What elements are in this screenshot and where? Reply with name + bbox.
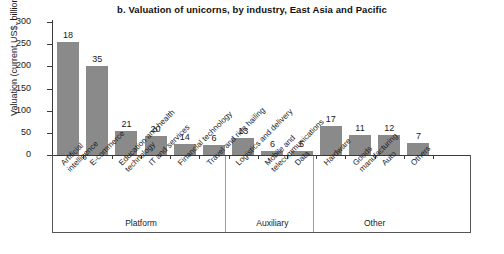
y-axis-tick-label: 150	[1, 83, 31, 93]
x-axis-tick-mark	[404, 155, 405, 159]
panel-left-border	[52, 155, 53, 233]
y-axis-tick-mark	[47, 155, 52, 156]
bar-value-label: 21	[121, 119, 131, 129]
x-axis-tick-mark	[199, 155, 200, 159]
x-axis-tick-mark	[112, 155, 113, 159]
chart-title: b. Valuation of unicorns, by industry, E…	[0, 4, 504, 15]
x-axis-tick-mark	[345, 155, 346, 159]
x-axis-tick-mark	[170, 155, 171, 159]
y-axis-tick-label: 100	[1, 105, 31, 115]
y-axis-tick-label: 300	[1, 16, 31, 26]
group-label: Platform	[57, 218, 225, 228]
bar-value-label: 18	[63, 30, 73, 40]
bar-value-label: 11	[355, 123, 364, 133]
group-label: Other	[320, 218, 430, 228]
y-axis-tick-label: 50	[1, 127, 31, 137]
bar: 18	[57, 42, 79, 155]
x-axis-tick-mark	[229, 155, 230, 159]
chart-figure: b. Valuation of unicorns, by industry, E…	[0, 0, 504, 254]
bar-value-label: 6	[270, 139, 275, 149]
group-separator	[225, 156, 226, 232]
y-axis-tick-label: 200	[1, 60, 31, 70]
group-label: Auxiliary	[232, 218, 312, 228]
x-axis-line	[52, 155, 471, 156]
bar-value-label: 35	[92, 54, 102, 64]
group-separator	[313, 156, 314, 232]
bar-value-label: 17	[326, 114, 336, 124]
y-axis-tick-label: 250	[1, 38, 31, 48]
panel-bottom-border	[52, 232, 471, 233]
x-axis-tick-mark	[258, 155, 259, 159]
x-axis-tick-mark	[433, 155, 434, 159]
panel-right-border	[470, 155, 471, 233]
bar-value-label: 7	[416, 131, 421, 141]
chart-title-text: b. Valuation of unicorns, by industry, E…	[117, 4, 387, 15]
x-axis-tick-mark	[316, 155, 317, 159]
y-axis-tick-label: 0	[1, 149, 31, 159]
